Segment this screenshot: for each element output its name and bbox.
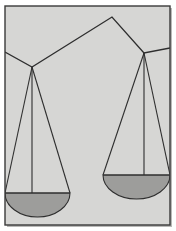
balance-scale-svg <box>0 0 176 231</box>
balance-scale-figure: Illustration of an unbalanced two-pan we… <box>0 0 176 231</box>
